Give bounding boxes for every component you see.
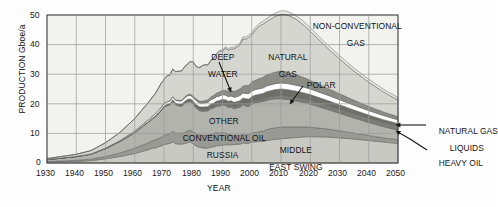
y-tick-50: 50 <box>30 11 39 20</box>
annotation-deep-water-line2: WATER <box>208 69 238 79</box>
annotation-heavy-oil-line1: HEAVY OIL <box>439 158 483 168</box>
annotation-non-conventional-gas-line2: GAS <box>347 38 365 48</box>
annotation-middle-east-swing: MIDDLE EAST SWING <box>255 137 327 180</box>
annotation-non-conventional-gas-line1: NON-CONVENTIONAL <box>313 21 402 31</box>
x-tick-2040: 2040 <box>357 169 376 178</box>
x-tick-2030: 2030 <box>328 169 347 178</box>
annotation-polar: POLAR <box>297 72 333 98</box>
annotation-deep-water: DEEP WATER <box>196 44 240 87</box>
annotation-natural-gas-line1: NATURAL <box>268 52 307 62</box>
annotation-natural-gas-liquids-line1: NATURAL GAS <box>439 126 498 136</box>
y-tick-10: 10 <box>30 129 39 138</box>
annotation-russia-line1: RUSSIA <box>207 150 239 160</box>
x-tick-1970: 1970 <box>152 169 171 178</box>
annotation-polar-line1: POLAR <box>307 80 336 90</box>
annotation-non-conventional-gas: NON-CONVENTIONAL GAS <box>303 13 399 56</box>
x-axis-title: YEAR <box>207 184 231 193</box>
x-tick-1960: 1960 <box>123 169 142 178</box>
x-tick-1980: 1980 <box>182 169 201 178</box>
y-tick-20: 20 <box>30 100 39 109</box>
x-tick-1990: 1990 <box>211 169 230 178</box>
y-axis-title: PRODUCTION Gboe/a <box>17 21 27 117</box>
x-tick-1950: 1950 <box>94 169 113 178</box>
annotation-deep-water-line1: DEEP <box>211 52 234 62</box>
annotation-middle-east-swing-line1: MIDDLE <box>280 145 312 155</box>
annotation-natural-gas-line2: GAS <box>279 69 297 79</box>
x-tick-1940: 1940 <box>65 169 84 178</box>
x-tick-1930: 1930 <box>36 169 55 178</box>
annotation-russia: RUSSIA <box>197 142 237 168</box>
y-tick-30: 30 <box>30 70 39 79</box>
y-tick-40: 40 <box>30 40 39 49</box>
annotation-heavy-oil: HEAVY OIL <box>429 150 483 176</box>
annotation-other-conventional-oil-line1: OTHER <box>209 116 239 126</box>
y-tick-0: 0 <box>36 158 41 167</box>
x-tick-2050: 2050 <box>386 169 405 178</box>
annotation-middle-east-swing-line2: EAST SWING <box>269 162 322 172</box>
